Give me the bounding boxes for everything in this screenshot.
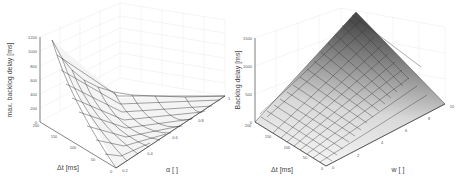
svg-text:4: 4 bbox=[381, 140, 384, 145]
svg-text:8: 8 bbox=[428, 116, 431, 121]
svg-text:50: 50 bbox=[303, 155, 308, 160]
left-plot-canvas: 0 200 400 600 800 1000 1200 200 150 100 … bbox=[0, 0, 231, 187]
svg-text:1000: 1000 bbox=[28, 49, 38, 54]
svg-text:400: 400 bbox=[30, 92, 37, 97]
svg-text:100: 100 bbox=[284, 145, 291, 150]
svg-text:800: 800 bbox=[30, 64, 37, 69]
svg-text:0.4: 0.4 bbox=[147, 151, 153, 156]
svg-text:10: 10 bbox=[450, 104, 455, 109]
svg-text:0: 0 bbox=[332, 165, 335, 170]
svg-text:100: 100 bbox=[70, 145, 77, 150]
svg-text:1200: 1200 bbox=[28, 35, 38, 40]
right-surface-plot: 0 500 1000 1500 200 150 100 50 0 0 2 4 6… bbox=[231, 0, 463, 187]
right-y-label: Δt [ms] bbox=[271, 166, 293, 174]
right-x-label: w [ ] bbox=[391, 166, 405, 174]
svg-text:50: 50 bbox=[91, 157, 96, 162]
svg-text:0.8: 0.8 bbox=[198, 118, 204, 123]
svg-text:0: 0 bbox=[321, 166, 324, 171]
svg-text:500: 500 bbox=[245, 92, 252, 97]
svg-text:6: 6 bbox=[405, 128, 408, 133]
left-x-label: α [ ] bbox=[166, 166, 178, 174]
left-y-label: Δt [ms] bbox=[57, 164, 79, 172]
svg-text:150: 150 bbox=[265, 134, 272, 139]
svg-text:200: 200 bbox=[30, 106, 37, 111]
svg-text:0.2: 0.2 bbox=[122, 168, 128, 173]
svg-text:1500: 1500 bbox=[243, 36, 253, 41]
right-plot-canvas: 0 500 1000 1500 200 150 100 50 0 0 2 4 6… bbox=[231, 0, 463, 187]
svg-text:150: 150 bbox=[51, 134, 58, 139]
svg-text:0.6: 0.6 bbox=[172, 135, 178, 140]
left-z-label: max. backlog delay [ms] bbox=[6, 42, 14, 117]
svg-text:1000: 1000 bbox=[243, 64, 253, 69]
svg-text:2: 2 bbox=[357, 153, 360, 158]
svg-text:0: 0 bbox=[110, 169, 113, 174]
right-z-label: Backlog delay [ms] bbox=[234, 51, 242, 110]
left-surface-plot: 0 200 400 600 800 1000 1200 200 150 100 … bbox=[0, 0, 231, 187]
svg-text:200: 200 bbox=[245, 123, 252, 128]
svg-text:200: 200 bbox=[33, 123, 40, 128]
svg-text:600: 600 bbox=[30, 78, 37, 83]
